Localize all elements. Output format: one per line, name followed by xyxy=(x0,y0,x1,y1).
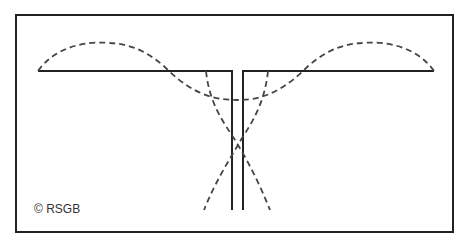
frame-border xyxy=(16,15,453,232)
copyright-credit: © RSGB xyxy=(34,202,80,216)
left-dipole-element xyxy=(38,71,232,210)
right-dipole-element xyxy=(243,71,434,210)
feeder-curve-b xyxy=(204,71,268,210)
distribution-curves xyxy=(38,43,434,210)
feeder-curve-a xyxy=(206,71,270,210)
